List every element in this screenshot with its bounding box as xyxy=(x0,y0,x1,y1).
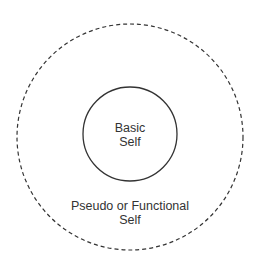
pseudo-self-line1: Pseudo or Functional xyxy=(60,199,200,213)
pseudo-self-line2: Self xyxy=(60,213,200,227)
basic-self-label: Basic Self xyxy=(90,121,170,149)
basic-self-line1: Basic xyxy=(90,121,170,135)
pseudo-self-label: Pseudo or Functional Self xyxy=(60,199,200,227)
basic-self-line2: Self xyxy=(90,135,170,149)
